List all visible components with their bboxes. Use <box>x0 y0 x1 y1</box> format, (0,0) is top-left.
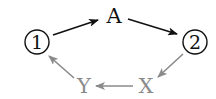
node-1: 1 <box>25 30 49 54</box>
node-2: 2 <box>183 30 207 54</box>
node-2-label: 2 <box>189 31 201 53</box>
node-y-label: Y <box>76 74 92 98</box>
arrow-y-to-1 <box>49 56 74 78</box>
arrow-1-to-a <box>53 20 98 35</box>
node-1-label: 1 <box>31 31 43 53</box>
arrow-a-to-2 <box>128 19 177 34</box>
cycle-diagram: 1 A 2 X Y <box>0 0 216 99</box>
arrow-2-to-x <box>158 54 183 77</box>
node-a-label: A <box>105 4 122 28</box>
node-x-label: X <box>139 74 154 98</box>
